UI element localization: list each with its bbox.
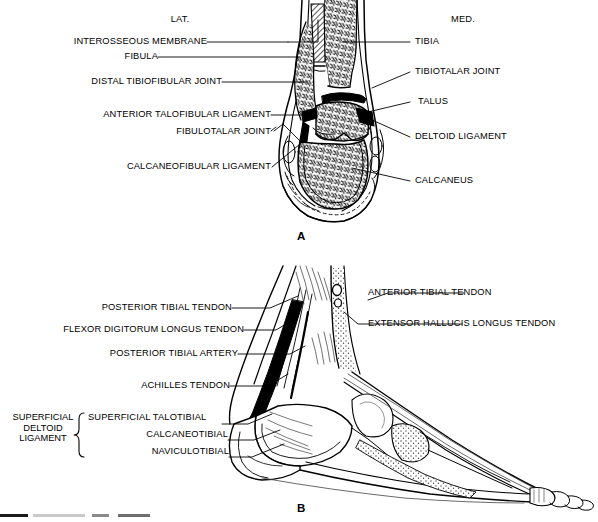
label-posterior-tibial-tendon: POSTERIOR TIBIAL TENDON [7, 302, 232, 313]
label-superficial-talotibial: SUPERFICIAL TALOTIBIAL [88, 412, 206, 423]
deltoid-group-line-1: SUPERFICIAL [5, 412, 81, 423]
label-deltoid-ligament: DELTOID LIGAMENT [415, 131, 507, 142]
label-calcaneofibular-ligament: CALCANEOFIBULAR LIGAMENT [7, 161, 271, 172]
panel-b-artwork [229, 266, 593, 510]
label-tibiotalar-joint: TIBIOTALAR JOINT [415, 66, 500, 77]
label-talus: TALUS [418, 96, 448, 107]
label-interosseous-membrane: INTEROSSEOUS MEMBRANE [7, 36, 207, 47]
label-tibia: TIBIA [415, 36, 439, 47]
label-extensor-hallucis-longus-tendon: EXTENSOR HALLUCIS LONGUS TENDON [368, 318, 555, 329]
figure-page: LAT. MED. INTEROSSEOUS MEMBRANE FIBULA D… [0, 0, 598, 522]
panel-b-letter: B [297, 502, 305, 514]
label-calcaneotibial: CALCANEOTIBIAL [7, 429, 228, 440]
label-anterior-tibial-tendon: ANTERIOR TIBIAL TENDON [368, 287, 492, 298]
label-posterior-tibial-artery: POSTERIOR TIBIAL ARTERY [7, 348, 238, 359]
label-naviculotibial: NAVICULOTIBIAL [7, 446, 229, 457]
label-calcaneus: CALCANEUS [415, 175, 473, 186]
label-anterior-talofibular-ligament: ANTERIOR TALOFIBULAR LIGAMENT [7, 109, 271, 120]
label-achilles-tendon: ACHILLES TENDON [7, 380, 230, 391]
panel-a-letter: A [297, 230, 305, 242]
label-fibulotalar-joint: FIBULOTALAR JOINT [7, 126, 271, 137]
panel-a-orientation-medial: MED. [443, 14, 483, 25]
panel-a-artwork [279, 0, 384, 222]
panel-a-orientation-lateral: LAT. [160, 14, 200, 25]
label-flexor-digitorum-longus-tendon: FLEXOR DIGITORUM LONGUS TENDON [7, 324, 244, 335]
label-distal-tibiofibular-joint: DISTAL TIBIOFIBULAR JOINT [7, 76, 222, 87]
label-fibula: FIBULA [7, 51, 158, 62]
scan-artifact-strip [0, 514, 170, 518]
